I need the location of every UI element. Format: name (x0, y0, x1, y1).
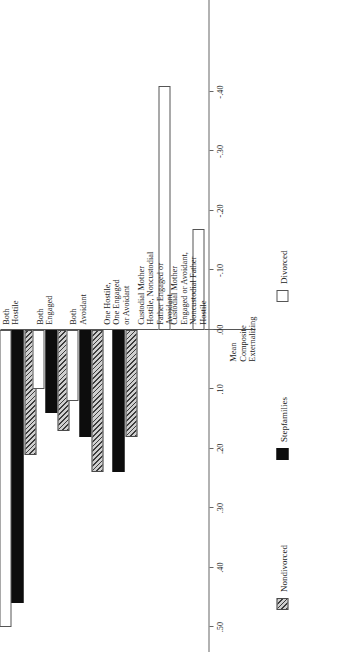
category-label-3: One Hostile, One Engaged or Avoidant (102, 233, 131, 325)
tick-7 (209, 210, 213, 211)
category-label-5: Custodial Mother Engaged or Avoidant, No… (169, 233, 207, 325)
tick-label-0: .50 (215, 607, 224, 647)
category-label-2: Both Avoidant (68, 233, 87, 325)
tick-label-3: .20 (215, 429, 224, 469)
category-baseline (208, 0, 209, 652)
tick-0 (209, 626, 213, 627)
tick-1 (209, 567, 213, 568)
tick-6 (209, 269, 213, 270)
tick-label-8: -.30 (215, 131, 224, 171)
plot-area: Both HostileBoth EngagedBoth AvoidantOne… (0, 0, 255, 652)
tick-label-2: .30 (215, 488, 224, 528)
legend-label-stepfamilies: Stepfamilies (278, 397, 288, 442)
tick-2 (209, 507, 213, 508)
tick-label-5: .00 (215, 310, 224, 350)
tick-label-7: -.20 (215, 191, 224, 231)
tick-4 (209, 388, 213, 389)
category-label-0: Both Hostile (1, 233, 20, 325)
tick-label-4: .10 (215, 369, 224, 409)
tick-3 (209, 448, 213, 449)
bar-stepfamilies-1 (45, 330, 57, 413)
tick-label-9: -.40 (215, 72, 224, 112)
tick-8 (209, 150, 213, 151)
tick-9 (209, 91, 213, 92)
bar-stepfamilies-0 (11, 330, 23, 603)
bar-nondivorced-3 (125, 330, 137, 437)
bar-divorced-1 (32, 330, 44, 389)
bar-divorced-2 (66, 330, 78, 401)
axis-title: Mean Composite Externalizing (228, 292, 257, 362)
legend-label-nondivorced: Nondivorced (278, 545, 288, 592)
legend-label-divorced: Divorced (278, 251, 288, 285)
bar-stepfamilies-2 (79, 330, 91, 437)
chart-legend: NondivorcedStepfamiliesDivorced (262, 0, 302, 652)
legend-swatch-nondivorced-icon (276, 598, 288, 610)
category-label-4: Custodial Mother Hostile, Noncustodial F… (136, 233, 174, 325)
category-label-1: Both Engaged (35, 233, 54, 325)
tick-label-6: -.10 (215, 250, 224, 290)
tick-label-1: .40 (215, 548, 224, 588)
rotated-figure-wrapper: Both HostileBoth EngagedBoth AvoidantOne… (0, 0, 351, 652)
bar-chart-figure: Both HostileBoth EngagedBoth AvoidantOne… (0, 0, 351, 652)
bar-stepfamilies-3 (112, 330, 124, 473)
bar-nondivorced-2 (91, 330, 103, 473)
legend-swatch-stepfamilies-icon (276, 448, 288, 460)
legend-swatch-divorced-icon (276, 290, 288, 302)
tick-5 (209, 329, 213, 330)
bar-divorced-0 (0, 330, 11, 627)
